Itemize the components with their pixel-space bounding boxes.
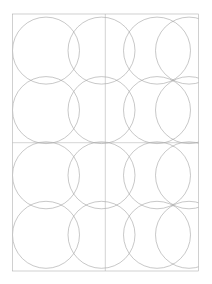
circle-lattice-drawing	[0, 0, 212, 284]
drawing-canvas	[0, 0, 212, 284]
